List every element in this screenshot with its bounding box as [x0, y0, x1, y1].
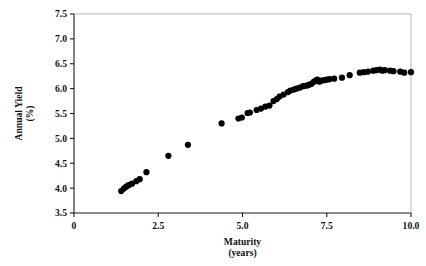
scatter-plot-figure: 3.54.04.55.05.56.06.57.07.502.55.07.510.… — [0, 0, 426, 266]
y-axis-units: (%) — [24, 106, 36, 122]
data-point — [365, 69, 371, 75]
y-tick-label: 3.5 — [55, 207, 67, 218]
y-tick-label: 6.0 — [55, 83, 67, 94]
axes-group — [74, 14, 411, 213]
data-point — [185, 142, 191, 148]
data-point — [239, 114, 245, 120]
data-point — [247, 109, 253, 115]
y-tick-label: 5.0 — [55, 133, 67, 144]
y-tick-label: 5.5 — [55, 108, 67, 119]
x-tick-label: 5.0 — [237, 220, 249, 231]
y-tick-label: 7.0 — [55, 33, 67, 44]
x-axis-units: (years) — [228, 247, 256, 259]
data-point — [408, 69, 414, 75]
y-axis-title: Annual Yield — [13, 86, 24, 141]
x-tick-label: 10.0 — [403, 220, 420, 231]
data-point — [165, 153, 171, 159]
y-tick-label: 4.5 — [55, 158, 67, 169]
data-point — [137, 176, 143, 182]
y-tick-label: 7.5 — [55, 8, 67, 19]
data-point — [219, 120, 225, 126]
data-point — [143, 169, 149, 175]
data-point — [382, 67, 388, 73]
y-tick-label: 4.0 — [55, 183, 67, 194]
data-point — [390, 68, 396, 74]
data-points-group — [118, 67, 414, 195]
data-point — [347, 72, 353, 78]
x-tick-label: 2.5 — [152, 220, 164, 231]
data-point — [331, 76, 337, 82]
x-tick-label: 0 — [72, 220, 77, 231]
data-point — [339, 75, 345, 81]
plot-canvas: 3.54.04.55.05.56.06.57.07.502.55.07.510.… — [0, 0, 426, 266]
x-axis-title: Maturity — [224, 236, 262, 247]
data-point — [401, 70, 407, 76]
y-tick-label: 6.5 — [55, 58, 67, 69]
axis-labels-group: Maturity(years)Annual Yield(%) — [13, 86, 261, 259]
x-tick-label: 7.5 — [321, 220, 333, 231]
